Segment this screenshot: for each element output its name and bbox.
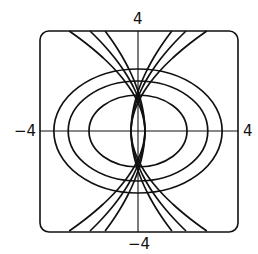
- plot-canvas: [0, 0, 258, 254]
- y-max-label: 4: [133, 12, 143, 27]
- x-max-label: 4: [243, 124, 253, 139]
- y-min-label: −4: [128, 237, 150, 252]
- x-min-label: −4: [14, 124, 36, 139]
